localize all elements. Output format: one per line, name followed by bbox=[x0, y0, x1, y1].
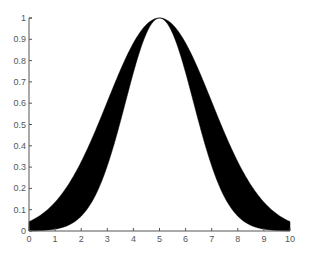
x-tick-label: 10 bbox=[285, 234, 295, 244]
x-tick-label: 7 bbox=[209, 234, 214, 244]
y-tick-label: 0.6 bbox=[13, 98, 26, 108]
x-tick-label: 0 bbox=[26, 234, 31, 244]
gaussian-band-fill bbox=[29, 18, 290, 231]
y-tick-label: 0.2 bbox=[13, 183, 26, 193]
x-tick-label: 1 bbox=[53, 234, 58, 244]
x-tick-label: 6 bbox=[183, 234, 188, 244]
filled-band-area bbox=[29, 18, 290, 231]
chart-figure: 012345678910 00.10.20.30.40.50.60.70.80.… bbox=[0, 0, 311, 256]
x-tick-label: 4 bbox=[131, 234, 136, 244]
x-axis-ticks: 012345678910 bbox=[26, 228, 295, 244]
x-tick-label: 3 bbox=[105, 234, 110, 244]
y-tick-label: 0.5 bbox=[13, 120, 26, 130]
x-tick-label: 2 bbox=[79, 234, 84, 244]
y-tick-label: 0.4 bbox=[13, 141, 26, 151]
y-tick-label: 0.9 bbox=[13, 34, 26, 44]
x-tick-label: 8 bbox=[235, 234, 240, 244]
y-tick-label: 1 bbox=[21, 13, 26, 23]
x-tick-label: 5 bbox=[157, 234, 162, 244]
y-tick-label: 0.7 bbox=[13, 77, 26, 87]
y-tick-label: 0.3 bbox=[13, 162, 26, 172]
y-tick-label: 0.1 bbox=[13, 205, 26, 215]
y-tick-label: 0.8 bbox=[13, 56, 26, 66]
y-tick-label: 0 bbox=[21, 226, 26, 236]
x-tick-label: 9 bbox=[261, 234, 266, 244]
